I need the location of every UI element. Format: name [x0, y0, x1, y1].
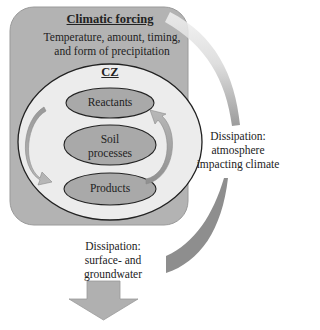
- climatic-forcing-description-line2: and form of precipitation: [32, 45, 192, 59]
- groundwater-dissipation-line1: Dissipation:: [68, 240, 158, 254]
- climatic-forcing-description-line1: Temperature, amount, timing,: [32, 31, 192, 45]
- atmosphere-dissipation-line1: Dissipation:: [192, 130, 284, 144]
- groundwater-dissipation-line2: surface- and: [68, 254, 158, 268]
- atmosphere-dissipation-line2: atmosphere: [192, 144, 284, 158]
- groundwater-dissipation-label: Dissipation: surface- and groundwater: [68, 240, 158, 281]
- groundwater-dissipation-line3: groundwater: [68, 268, 158, 282]
- cz-title: CZ: [80, 65, 140, 80]
- products-label: Products: [52, 182, 168, 196]
- soil-processes-label: Soil processes: [52, 133, 168, 161]
- climatic-forcing-title: Climatic forcing: [40, 12, 180, 27]
- climatic-forcing-description: Temperature, amount, timing, and form of…: [32, 31, 192, 59]
- soil-processes-label-line1: Soil: [52, 133, 168, 147]
- atmosphere-dissipation-line3: impacting climate: [192, 158, 284, 172]
- soil-processes-label-line2: processes: [52, 147, 168, 161]
- groundwater-down-arrow: [69, 281, 138, 320]
- reactants-label: Reactants: [52, 96, 168, 110]
- atmosphere-dissipation-label: Dissipation: atmosphere impacting climat…: [192, 130, 284, 171]
